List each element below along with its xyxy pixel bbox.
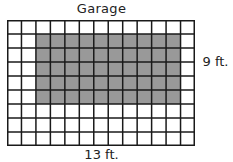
grid-cell <box>7 104 21 118</box>
grid-cell-shaded <box>152 48 166 62</box>
grid-cell-shaded <box>79 90 93 104</box>
grid-cell <box>7 90 21 104</box>
grid-cell-shaded <box>166 34 180 48</box>
grid-cell <box>181 34 195 48</box>
grid-cell-shaded <box>166 48 180 62</box>
grid-cell <box>108 104 122 118</box>
height-label: 9 ft. <box>198 54 233 69</box>
grid-cell <box>137 104 151 118</box>
grid-cell <box>94 132 108 146</box>
grid-cell-shaded <box>65 34 79 48</box>
grid-cell-shaded <box>79 34 93 48</box>
grid-cell-shaded <box>137 62 151 76</box>
grid-cell <box>166 118 180 132</box>
grid-cell-shaded <box>166 76 180 90</box>
grid-cell <box>79 118 93 132</box>
grid-cell <box>123 20 137 34</box>
grid-cell <box>181 76 195 90</box>
grid-cell-shaded <box>50 76 64 90</box>
grid-cell-shaded <box>123 34 137 48</box>
grid-cell <box>50 132 64 146</box>
grid-cell <box>50 104 64 118</box>
grid-cell-shaded <box>137 48 151 62</box>
grid-cell <box>21 104 35 118</box>
grid-cell-shaded <box>108 34 122 48</box>
grid-cell-shaded <box>137 76 151 90</box>
grid-cell <box>181 90 195 104</box>
grid-cell <box>21 90 35 104</box>
grid-cell <box>152 118 166 132</box>
grid-cell <box>79 132 93 146</box>
grid-cell-shaded <box>123 76 137 90</box>
grid-cell <box>21 132 35 146</box>
grid-cell <box>137 118 151 132</box>
grid-cell <box>181 20 195 34</box>
garage-grid <box>7 20 195 146</box>
grid-cell-shaded <box>94 34 108 48</box>
grid-cell <box>94 104 108 118</box>
grid-cell <box>181 132 195 146</box>
grid-cell <box>123 104 137 118</box>
grid-cell <box>36 104 50 118</box>
grid-cell <box>65 20 79 34</box>
grid-cell <box>21 62 35 76</box>
grid-cell-shaded <box>166 62 180 76</box>
grid-cell <box>79 20 93 34</box>
grid-cell <box>166 20 180 34</box>
grid-cell <box>79 104 93 118</box>
grid-cell <box>152 132 166 146</box>
grid-cell-shaded <box>94 48 108 62</box>
width-label: 13 ft. <box>0 147 203 162</box>
grid-cell-shaded <box>166 90 180 104</box>
grid-cell <box>181 104 195 118</box>
grid-cell <box>36 20 50 34</box>
grid-cell <box>21 20 35 34</box>
grid-cell-shaded <box>152 62 166 76</box>
grid-cell-shaded <box>108 62 122 76</box>
grid-cell <box>137 20 151 34</box>
grid-cell <box>7 132 21 146</box>
grid-cell-shaded <box>108 48 122 62</box>
grid-cell <box>108 118 122 132</box>
grid-cell-shaded <box>137 90 151 104</box>
grid-cell <box>65 104 79 118</box>
grid-cell <box>21 48 35 62</box>
grid-cell <box>152 20 166 34</box>
grid-cell <box>137 132 151 146</box>
grid-cell <box>181 118 195 132</box>
grid-cell <box>123 118 137 132</box>
grid-cell <box>94 20 108 34</box>
grid-cell <box>108 132 122 146</box>
grid-cell-shaded <box>123 62 137 76</box>
grid-cell-shaded <box>94 62 108 76</box>
grid-cell <box>166 132 180 146</box>
grid-cell <box>7 20 21 34</box>
grid-cell-shaded <box>152 76 166 90</box>
grid-cell-shaded <box>50 48 64 62</box>
grid-cell-shaded <box>79 62 93 76</box>
grid-cell <box>7 48 21 62</box>
grid-cell-shaded <box>50 62 64 76</box>
grid-cell <box>181 62 195 76</box>
grid-cell <box>21 118 35 132</box>
grid-cell-shaded <box>36 34 50 48</box>
grid-cell <box>181 48 195 62</box>
grid-cell-shaded <box>108 76 122 90</box>
grid-cell <box>94 118 108 132</box>
grid-cell <box>166 104 180 118</box>
grid-cell <box>7 62 21 76</box>
grid-cell <box>65 118 79 132</box>
grid-cell <box>50 20 64 34</box>
grid-cell-shaded <box>152 34 166 48</box>
grid-cell-shaded <box>36 48 50 62</box>
grid-cell <box>36 118 50 132</box>
grid-cell <box>7 76 21 90</box>
grid-cell <box>7 118 21 132</box>
grid-cell <box>7 34 21 48</box>
grid-cell <box>21 76 35 90</box>
grid-cell <box>152 104 166 118</box>
grid-cell <box>65 132 79 146</box>
grid-cell-shaded <box>50 34 64 48</box>
grid-cell <box>21 34 35 48</box>
grid-cell-shaded <box>123 90 137 104</box>
